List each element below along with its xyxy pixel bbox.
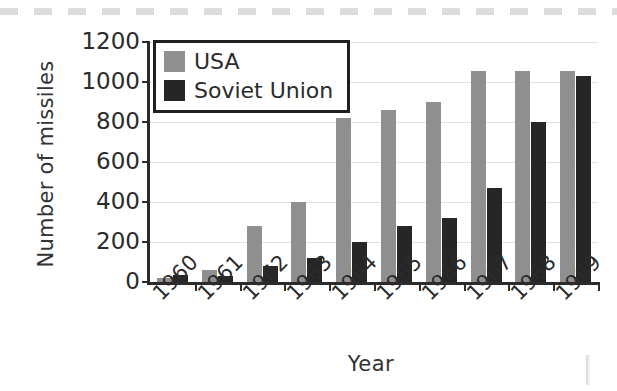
- y-tick-label: 1000: [68, 70, 140, 93]
- y-tick-mark: [142, 81, 150, 83]
- y-axis-title: Number of missiles: [34, 34, 58, 294]
- legend-item: Soviet Union: [164, 76, 333, 105]
- y-tick-mark: [142, 161, 150, 163]
- y-tick-label: 1200: [68, 30, 140, 53]
- y-tick-label: 200: [68, 230, 140, 253]
- x-axis-title: Year: [147, 352, 595, 376]
- bar-group: [426, 42, 457, 282]
- bar-usa-1964: [336, 118, 351, 282]
- y-tick-label: 600: [68, 150, 140, 173]
- legend-label: Soviet Union: [194, 80, 333, 102]
- bar-group: [381, 42, 412, 282]
- bar-chart-figure: Number of missiles 020040060080010001200…: [0, 0, 617, 391]
- y-tick-label: 0: [68, 270, 140, 293]
- y-axis-tick-labels: 020040060080010001200: [68, 0, 140, 391]
- y-tick-mark: [142, 121, 150, 123]
- bar-usa-1967: [471, 71, 486, 282]
- y-tick-mark: [142, 201, 150, 203]
- bar-group: [471, 42, 502, 282]
- y-tick-mark: [142, 241, 150, 243]
- bar-usa-1966: [426, 102, 441, 282]
- chart-legend: USASoviet Union: [153, 40, 350, 113]
- legend-label: USA: [194, 51, 240, 73]
- legend-item: USA: [164, 47, 333, 76]
- y-tick-label: 800: [68, 110, 140, 133]
- x-axis-tick-labels: 1960196119621963196419651966196719681969: [147, 288, 607, 348]
- legend-swatch-soviet-union: [164, 80, 185, 101]
- bar-usa-1969: [560, 71, 575, 282]
- y-tick-mark: [142, 281, 150, 283]
- legend-swatch-usa: [164, 51, 185, 72]
- y-tick-label: 400: [68, 190, 140, 213]
- bar-group: [515, 42, 546, 282]
- y-tick-mark: [142, 41, 150, 43]
- bar-usa-1968: [515, 71, 530, 282]
- bar-usa-1965: [381, 110, 396, 282]
- bar-group: [560, 42, 591, 282]
